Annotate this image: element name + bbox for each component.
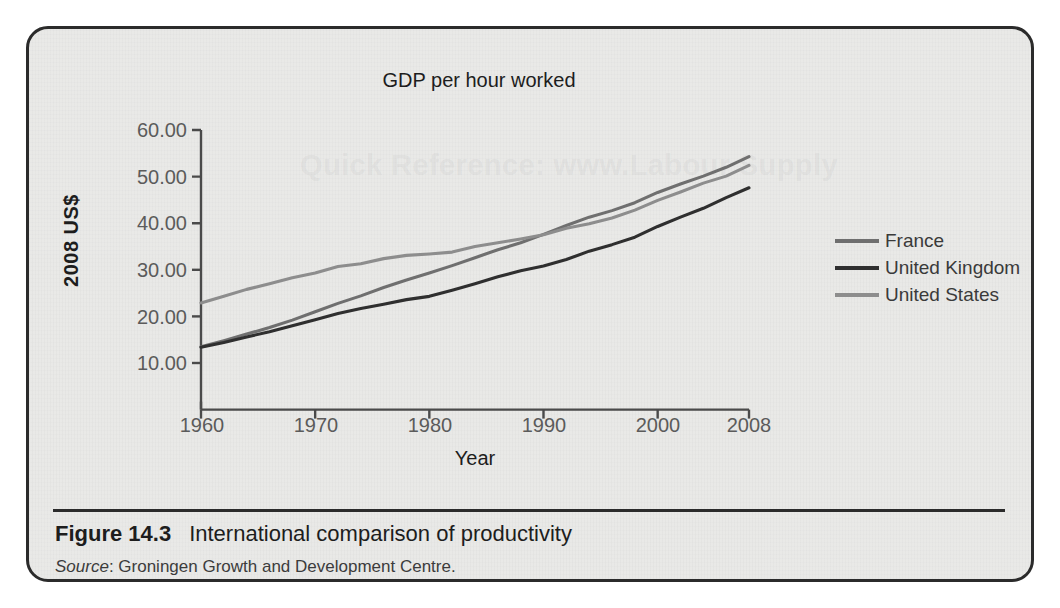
axes-group — [192, 130, 749, 419]
legend-swatch-france — [835, 239, 879, 243]
legend-label-united-kingdom: United Kingdom — [885, 257, 1020, 279]
legend: France United Kingdom United States — [835, 227, 1034, 308]
figure-panel: Quick Reference: www.Labour Supply GDP p… — [26, 26, 1034, 582]
figure-caption-text: International comparison of productivity — [189, 521, 572, 546]
chart-title: GDP per hour worked — [329, 69, 629, 92]
figure-source: Source: Groningen Growth and Development… — [55, 557, 995, 577]
y-tick-label-50: 50.00 — [101, 166, 187, 189]
x-tick-label-2000: 2000 — [613, 414, 703, 437]
source-label: Source — [55, 557, 109, 576]
y-tick-label-10: 10.00 — [101, 352, 187, 375]
legend-label-united-states: United States — [885, 284, 999, 306]
legend-item-france[interactable]: France — [835, 227, 1034, 254]
y-tick-label-60: 60.00 — [101, 119, 187, 142]
legend-swatch-united-kingdom — [835, 266, 879, 270]
series-lines-group — [201, 157, 749, 348]
legend-item-united-states[interactable]: United States — [835, 281, 1034, 308]
legend-item-united-kingdom[interactable]: United Kingdom — [835, 254, 1034, 281]
x-tick-label-1980: 1980 — [385, 414, 475, 437]
y-tick-label-40: 40.00 — [101, 212, 187, 235]
x-axis-label: Year — [199, 447, 751, 470]
x-tick-label-1960: 1960 — [157, 414, 247, 437]
caption-divider — [53, 509, 1005, 512]
figure-caption: Figure 14.3International comparison of p… — [55, 521, 995, 547]
y-tick-label-30: 30.00 — [101, 259, 187, 282]
source-text: : Groningen Growth and Development Centr… — [109, 557, 456, 576]
y-tick-label-20: 20.00 — [101, 306, 187, 329]
x-tick-label-1970: 1970 — [271, 414, 361, 437]
x-tick-label-2008: 2008 — [704, 414, 794, 437]
y-axis-label: 2008 US$ — [60, 171, 83, 311]
x-tick-label-1990: 1990 — [499, 414, 589, 437]
figure-number: Figure 14.3 — [55, 521, 171, 546]
legend-swatch-united-states — [835, 293, 879, 297]
series-line-france — [201, 157, 749, 347]
legend-label-france: France — [885, 230, 944, 252]
